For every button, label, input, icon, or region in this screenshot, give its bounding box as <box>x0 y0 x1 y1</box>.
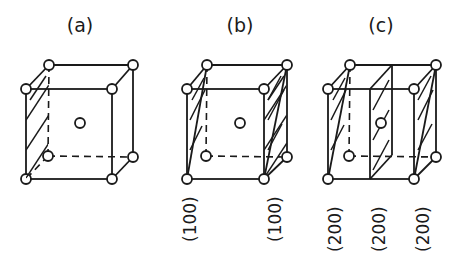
cube-a <box>21 60 138 184</box>
corner-atom <box>128 60 138 70</box>
corner-atom <box>409 84 419 94</box>
plane-label-100-left: (100) <box>180 196 200 242</box>
bcc-lattice-figure: (a) (b) <box>0 0 464 266</box>
plane-label-100-right: (100) <box>265 196 285 242</box>
body-center-atom <box>75 118 85 128</box>
panel-b-title: (b) <box>227 14 254 36</box>
corner-atom <box>201 151 211 161</box>
corner-atom <box>182 84 192 94</box>
corner-atom <box>345 60 355 70</box>
corner-atom <box>282 60 292 70</box>
corner-atom <box>344 151 354 161</box>
panel-b: (b) <box>227 14 254 36</box>
corner-atom <box>202 60 212 70</box>
cube-c <box>323 60 441 184</box>
corner-atom <box>128 152 138 162</box>
corner-atom <box>431 152 441 162</box>
corner-atom <box>44 60 54 70</box>
corner-atom <box>323 84 333 94</box>
corner-atom <box>21 174 31 184</box>
corner-atom <box>107 174 117 184</box>
corner-atom <box>259 84 269 94</box>
plane-label-200-middle: (200) <box>369 206 389 252</box>
corner-atom <box>43 151 53 161</box>
plane-label-200-left: (200) <box>325 206 345 252</box>
corner-atom <box>409 174 419 184</box>
plane-label-200-right: (200) <box>413 206 433 252</box>
corner-atom <box>431 60 441 70</box>
panel-a-title: (a) <box>67 14 93 36</box>
cube-b <box>26 60 292 184</box>
panel-c-title: (c) <box>368 14 393 36</box>
body-center-atom <box>235 118 245 128</box>
body-center-atom <box>376 118 386 128</box>
corner-atom <box>282 152 292 162</box>
corner-atom <box>107 84 117 94</box>
corner-atom <box>182 174 192 184</box>
corner-atom <box>21 84 31 94</box>
corner-atom <box>323 174 333 184</box>
corner-atom <box>259 174 269 184</box>
